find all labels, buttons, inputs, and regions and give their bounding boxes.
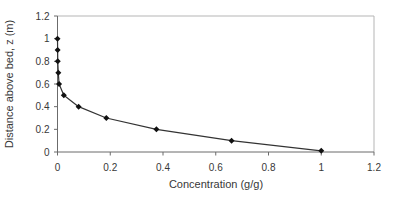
- y-tick-label: 0: [44, 147, 50, 158]
- y-tick-label: 0.6: [36, 79, 50, 90]
- x-tick-label: 0.8: [262, 162, 276, 173]
- x-tick-label: 1.2: [367, 162, 381, 173]
- y-tick-label: 1: [44, 33, 50, 44]
- y-tick-label: 0.4: [36, 101, 50, 112]
- data-point-marker: [55, 47, 61, 53]
- y-tick-label: 0.2: [36, 124, 50, 135]
- data-point-marker: [153, 126, 159, 132]
- x-axis-title: Concentration (g/g): [58, 178, 374, 190]
- data-point-marker: [103, 115, 109, 121]
- data-point-marker: [229, 138, 235, 144]
- data-point-marker: [318, 148, 324, 154]
- x-tick-label: 0.4: [156, 162, 170, 173]
- x-tick-label: 1: [318, 162, 324, 173]
- data-point-marker: [55, 58, 61, 64]
- x-tick-label: 0.2: [103, 162, 117, 173]
- series-line: [58, 39, 322, 151]
- concentration-profile-chart: 00.20.40.60.811.200.20.40.60.811.2 Dista…: [0, 0, 400, 202]
- data-point-marker: [55, 36, 61, 42]
- data-point-marker: [55, 70, 61, 76]
- x-tick-label: 0: [55, 162, 61, 173]
- x-tick-label: 0.6: [209, 162, 223, 173]
- data-point-marker: [56, 81, 62, 87]
- chart-plot-area: 00.20.40.60.811.200.20.40.60.811.2: [0, 0, 400, 202]
- y-tick-label: 0.8: [36, 56, 50, 67]
- plot-area-border: [58, 16, 375, 152]
- y-tick-label: 1.2: [36, 11, 50, 22]
- y-axis-title: Distance above bed, z (m): [2, 9, 16, 159]
